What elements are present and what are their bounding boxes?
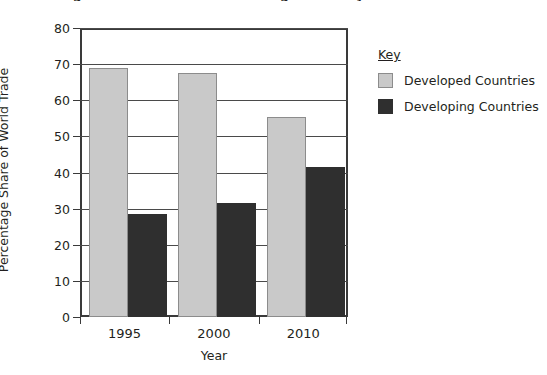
y-tick-0 — [73, 317, 80, 318]
bar-2000-developed[interactable] — [178, 73, 217, 317]
legend-item-developing[interactable]: Developing Countries — [378, 99, 543, 114]
y-tick-50 — [73, 136, 80, 137]
y-axis-label-0: 0 — [30, 310, 70, 325]
y-tick-80 — [73, 28, 80, 29]
x-axis-title: Year — [80, 348, 348, 363]
bar-2000-developing[interactable] — [217, 203, 256, 317]
bar-1995-developing[interactable] — [128, 214, 167, 317]
y-tick-20 — [73, 245, 80, 246]
x-axis-label-1995: 1995 — [108, 326, 141, 341]
legend-label-developing: Developing Countries — [404, 99, 539, 114]
legend-label-developed: Developed Countries — [404, 73, 535, 88]
legend-swatch-developing-icon — [378, 99, 393, 114]
chart-legend: Key Developed Countries Developing Count… — [378, 44, 543, 125]
bar-2010-developed[interactable] — [267, 117, 306, 317]
legend-swatch-developed-icon — [378, 73, 393, 88]
chart-plot-area: 80 70 60 50 40 30 20 10 0 1995 2000 2010 — [80, 28, 348, 317]
y-axis-label-40: 40 — [30, 165, 70, 180]
y-axis-label-70: 70 — [30, 57, 70, 72]
y-tick-60 — [73, 100, 80, 101]
x-tick-left — [80, 317, 81, 324]
x-axis-label-2000: 2000 — [197, 326, 230, 341]
gridline-70 — [80, 64, 348, 65]
x-tick-1 — [169, 317, 170, 324]
legend-item-developed[interactable]: Developed Countries — [378, 73, 543, 88]
bar-1995-developed[interactable] — [89, 68, 128, 317]
x-axis-label-2010: 2010 — [287, 326, 320, 341]
y-axis-label-60: 60 — [30, 93, 70, 108]
y-axis-label-30: 30 — [30, 201, 70, 216]
bar-2010-developing[interactable] — [306, 167, 345, 317]
y-axis-label-20: 20 — [30, 237, 70, 252]
y-tick-10 — [73, 281, 80, 282]
y-axis-label-50: 50 — [30, 129, 70, 144]
y-tick-30 — [73, 209, 80, 210]
y-tick-40 — [73, 173, 80, 174]
legend-title: Key — [378, 47, 401, 62]
x-tick-2 — [259, 317, 260, 324]
y-tick-70 — [73, 64, 80, 65]
y-axis-title: Percentage Share of World Trade — [0, 40, 11, 300]
y-axis-label-80: 80 — [30, 21, 70, 36]
gridline-80 — [80, 28, 348, 29]
x-tick-right — [346, 317, 347, 324]
y-axis-label-10: 10 — [30, 273, 70, 288]
clipped-figure-title: Figure 1: World Trade Percentage Share b… — [60, 0, 380, 1]
